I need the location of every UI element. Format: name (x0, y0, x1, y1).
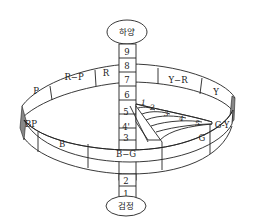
value-6: 6 (124, 90, 129, 100)
value-3: 3 (123, 133, 128, 143)
chroma-2: 2 (149, 103, 155, 112)
hue-label-r: R (103, 68, 110, 78)
value-5: 5 (123, 107, 128, 117)
hue-label-y: Y (212, 87, 219, 97)
hue-label-r-p: R−P (64, 72, 84, 82)
value-9: 9 (124, 47, 129, 57)
value-4: 4' (122, 122, 130, 132)
chroma-4: 4 (178, 114, 184, 123)
value-2: 2 (123, 176, 128, 186)
hue-label-b: B (59, 139, 65, 149)
chroma-1: 1 (141, 98, 146, 107)
hue-label-g-y: G-Y (215, 120, 230, 130)
value-axis-lower: 2 1 검정 (106, 174, 146, 216)
value-8: 8 (124, 61, 129, 71)
hue-label-b-g: B−G (116, 149, 136, 159)
diagram-canvas: 하양 9 8 7 6 5 4' 3 1 2 3 4 5 (0, 0, 253, 218)
hue-label-p: P (33, 86, 39, 96)
black-label: 검정 (118, 201, 134, 211)
value-7: 7 (124, 75, 129, 85)
hue-label-bp: BP (25, 119, 37, 129)
chroma-5: 5 (195, 119, 200, 128)
chroma-3: 3 (164, 109, 169, 118)
munsell-color-solid-diagram: 하양 9 8 7 6 5 4' 3 1 2 3 4 5 (0, 0, 253, 218)
hue-label-y-r: Y−R (167, 75, 188, 85)
white-label: 하양 (119, 27, 135, 37)
hue-label-g: G (199, 133, 206, 143)
